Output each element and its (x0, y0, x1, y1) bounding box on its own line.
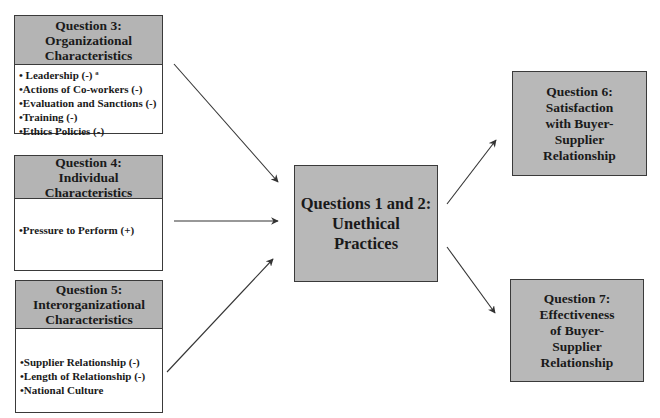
arrow-q3-to-center (174, 64, 278, 182)
arrow-center-to-q6 (447, 140, 496, 204)
arrows-layer (0, 0, 660, 418)
arrow-center-to-q7 (447, 247, 495, 313)
arrow-q5-to-center (167, 259, 273, 372)
